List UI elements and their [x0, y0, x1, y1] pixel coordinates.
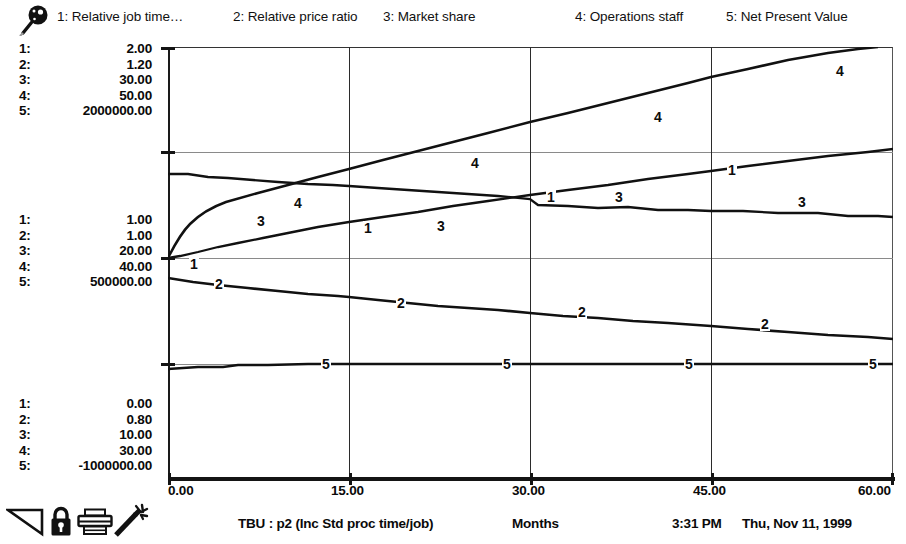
- y-scale-max-index-1: 1:: [19, 41, 31, 57]
- legend-item-5-label: Net Present Value: [741, 9, 848, 24]
- y-scale-min-block: 1: 0.00 2: 0.80 3: 10.00 4: 30.00 5: -10…: [0, 396, 152, 474]
- y-scale-min-index-4: 4:: [19, 443, 31, 459]
- series-5-marker-4: 5: [868, 357, 878, 371]
- series-4-marker-2: 4: [470, 156, 480, 170]
- y-scale-max-value-4: 50.00: [119, 88, 152, 104]
- y-scale-min-index-3: 3:: [19, 427, 31, 443]
- x-axis-label-0: 0.00: [168, 483, 193, 498]
- plot-area[interactable]: 3 3 3 3 4 4 4 4 1 1 1 1 2 2 2 2 5 5 5 5: [168, 47, 893, 479]
- x-axis-label-30: 30.00: [512, 483, 545, 498]
- y-scale-mid-value-4: 40.00: [119, 259, 152, 275]
- y-scale-min-row-3: 3: 10.00: [0, 427, 152, 443]
- y-scale-mid-index-2: 2:: [19, 228, 31, 244]
- legend-item-5[interactable]: 5: Net Present Value: [726, 9, 848, 24]
- y-scale-max-row-5: 5: 2000000.00: [0, 103, 152, 119]
- series-1-marker-0: 1: [189, 257, 199, 271]
- series-4-marker-1: 4: [293, 196, 303, 210]
- series-1-line: [168, 149, 893, 258]
- y-scale-max-index-5: 5:: [19, 103, 31, 119]
- y-scale-min-row-5: 5: -1000000.00: [0, 458, 152, 474]
- y-scale-max-block: 1: 2.00 2: 1.20 3: 30.00 4: 50.00 5: 200…: [0, 41, 152, 119]
- series-4-line: [168, 47, 878, 258]
- legend-item-5-number: 5:: [726, 9, 737, 24]
- y-scale-max-index-3: 3:: [19, 72, 31, 88]
- series-3-marker-3: 3: [614, 190, 624, 204]
- legend-item-4-number: 4:: [575, 9, 586, 24]
- series-4-marker-4: 4: [835, 64, 845, 78]
- series-2-marker-2: 2: [396, 296, 406, 310]
- y-scale-max-row-1: 1: 2.00: [0, 41, 152, 57]
- lock-icon[interactable]: [49, 506, 73, 538]
- series-1-marker-2: 1: [546, 190, 556, 204]
- y-scale-mid-index-3: 3:: [19, 243, 31, 259]
- y-scale-min-row-1: 1: 0.00: [0, 396, 152, 412]
- series-1-marker-3: 1: [727, 163, 737, 177]
- legend-item-1-label: Relative job time…: [72, 9, 184, 24]
- y-scale-min-row-4: 4: 30.00: [0, 443, 152, 459]
- y-scale-min-row-2: 2: 0.80: [0, 412, 152, 428]
- y-scale-max-row-3: 3: 30.00: [0, 72, 152, 88]
- series-3-marker-2: 3: [436, 219, 446, 233]
- series-3-marker-1: 3: [256, 214, 266, 228]
- series-2-line: [168, 278, 893, 339]
- page-corner-icon[interactable]: [6, 507, 46, 537]
- y-scale-min-index-2: 2:: [19, 412, 31, 428]
- series-curves: [168, 47, 893, 479]
- magic-wand-icon[interactable]: [112, 503, 150, 539]
- y-scale-max-value-1: 2.00: [127, 41, 152, 57]
- y-scale-max-row-2: 2: 1.20: [0, 57, 152, 73]
- y-scale-mid-block: 1: 1.00 2: 1.00 3: 20.00 4: 40.00 5: 500…: [0, 212, 152, 290]
- legend-item-2[interactable]: 2: Relative price ratio: [233, 9, 358, 24]
- series-2-marker-3: 2: [577, 305, 587, 319]
- legend-item-3-label: Market share: [398, 9, 476, 24]
- magnifier-icon[interactable]: [18, 4, 52, 36]
- y-scale-min-value-2: 0.80: [127, 412, 152, 428]
- timestamp-time: 3:31 PM: [672, 516, 722, 531]
- series-5-marker-3: 5: [684, 357, 694, 371]
- y-scale-min-value-4: 30.00: [119, 443, 152, 459]
- legend-item-1-number: 1:: [57, 9, 68, 24]
- y-scale-mid-index-1: 1:: [19, 212, 31, 228]
- run-title: TBU : p2 (Inc Std proc time/job): [238, 516, 433, 531]
- legend-item-3[interactable]: 3: Market share: [383, 9, 475, 24]
- legend-item-4[interactable]: 4: Operations staff: [575, 9, 683, 24]
- y-scale-max-value-5: 2000000.00: [83, 103, 152, 119]
- series-2-marker-1: 2: [214, 277, 224, 291]
- y-scale-mid-row-1: 1: 1.00: [0, 212, 152, 228]
- y-scale-max-index-2: 2:: [19, 57, 31, 73]
- series-5-marker-1: 5: [321, 357, 331, 371]
- x-axis-label-60: 60.00: [858, 483, 891, 498]
- y-scale-min-value-5: -1000000.00: [78, 458, 152, 474]
- printer-icon[interactable]: [77, 508, 113, 536]
- series-2-marker-4: 2: [760, 317, 770, 331]
- y-scale-max-value-3: 30.00: [119, 72, 152, 88]
- y-scale-mid-index-4: 4:: [19, 259, 31, 275]
- y-scale-mid-value-3: 20.00: [119, 243, 152, 259]
- x-axis-title: Months: [512, 516, 559, 531]
- toolbar: [6, 503, 146, 539]
- y-scale-max-row-4: 4: 50.00: [0, 88, 152, 104]
- y-scale-min-value-3: 10.00: [119, 427, 152, 443]
- legend-item-3-number: 3:: [383, 9, 394, 24]
- y-scale-mid-value-2: 1.00: [127, 228, 152, 244]
- series-5-marker-2: 5: [502, 357, 512, 371]
- legend-item-4-label: Operations staff: [590, 9, 683, 24]
- y-scale-mid-row-5: 5: 500000.00: [0, 274, 152, 290]
- y-scale-max-value-2: 1.20: [127, 57, 152, 73]
- series-5-line: [168, 364, 893, 369]
- series-3-marker-4: 3: [797, 195, 807, 209]
- x-axis-tick-60: [891, 473, 894, 485]
- y-scale-mid-row-2: 2: 1.00: [0, 228, 152, 244]
- legend-item-2-number: 2:: [233, 9, 244, 24]
- y-scale-mid-value-5: 500000.00: [90, 274, 152, 290]
- timestamp-date: Thu, Nov 11, 1999: [742, 516, 852, 531]
- y-scale-min-value-1: 0.00: [127, 396, 152, 412]
- y-scale-max-index-4: 4:: [19, 88, 31, 104]
- series-4-marker-3: 4: [653, 110, 663, 124]
- y-scale-mid-value-1: 1.00: [127, 212, 152, 228]
- series-1-marker-1: 1: [363, 221, 373, 235]
- legend-item-2-label: Relative price ratio: [248, 9, 358, 24]
- legend-item-1[interactable]: 1: Relative job time…: [57, 9, 183, 24]
- y-scale-mid-row-3: 3: 20.00: [0, 243, 152, 259]
- x-axis-label-15: 15.00: [331, 483, 364, 498]
